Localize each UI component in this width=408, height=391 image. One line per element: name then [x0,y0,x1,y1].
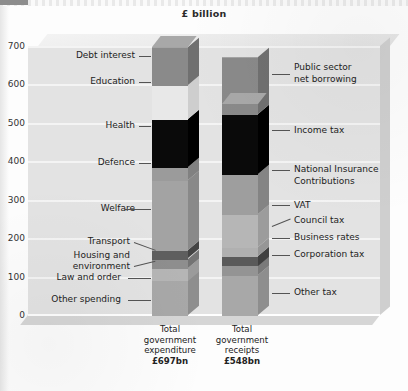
label-vat: VAT [294,200,311,211]
segment-vat[interactable] [222,214,258,248]
leader-corporation-tax [272,255,290,256]
label-welfare: Welfare [0,203,135,214]
segment-side-health [188,110,199,168]
caption-receipts-total: £548bn [194,356,290,367]
gridline-300 [28,200,380,202]
segment-council-tax[interactable] [222,247,258,257]
label-other-spending: Other spending [0,294,121,305]
label-transport: Transport [0,236,130,247]
bar-government-expenditure[interactable] [152,47,188,315]
label-national-insurance-line1: National Insurance [294,164,379,175]
leader-income-tax [272,130,290,131]
gridline-700 [28,46,380,48]
caption-receipts-l3: receipts [194,345,290,356]
leader-public-sector-net-borrowing [272,74,290,75]
segment-housing-and-environment[interactable] [152,259,188,269]
label-council-tax: Council tax [294,215,344,226]
leader-other-tax [272,293,290,294]
leader-education [139,82,151,83]
caption-receipts: Total government receipts £548bn [194,324,290,366]
gridline-0 [28,314,380,316]
label-debt-interest: Debt interest [0,50,135,61]
segment-income-tax[interactable] [222,114,258,175]
scan-artifact-blob [0,0,28,5]
leader-vat [272,205,290,206]
segment-other-tax[interactable] [222,275,258,316]
leader-national-insurance-contributions [272,170,290,171]
label-income-tax: Income tax [294,125,344,136]
segment-business-rates[interactable] [222,256,258,267]
plot-area-top-face [38,34,399,46]
label-public-sector-net-borrowing-line1: Public sector [294,62,351,73]
bar-government-receipts[interactable] [222,104,258,315]
segment-corporation-tax[interactable] [222,265,258,276]
segment-defence[interactable] [152,167,188,181]
label-defence: Defence [0,157,135,168]
label-law-and-order: Law and order [0,272,121,283]
leader-debt-interest [139,56,151,57]
label-education: Education [0,76,135,87]
plot-area-right-face [380,38,390,315]
label-health: Health [0,120,135,131]
caption-receipts-l2: government [194,335,290,346]
segment-side-welfare [188,171,199,251]
label-housing-and: Housing and [0,250,130,261]
leader-law-and-order [128,278,151,279]
leader-business-rates [272,238,290,239]
caption-receipts-l1: Total [194,324,290,335]
label-national-insurance-line2: Contributions [294,176,355,187]
segment-law-and-order[interactable] [152,268,188,282]
segment-health[interactable] [152,119,188,168]
segment-side-income-tax [258,105,269,174]
chart-title: £ billion [0,8,408,19]
segment-side-public-sector-net-borrowing [258,48,269,114]
segment-national-insurance-contributions[interactable] [222,174,258,215]
segment-transport[interactable] [152,250,188,259]
segment-other-spending[interactable] [152,280,188,316]
segment-public-sector-net-borrowing[interactable] [222,57,258,115]
scan-artifact-strip [0,0,408,6]
chart-page: £ billion 700 600 500 400 300 200 100 0 … [0,0,408,391]
label-corporation-tax: Corporation tax [294,249,364,260]
leader-welfare [125,209,151,210]
leader-defence [139,163,151,164]
label-business-rates: Business rates [294,232,360,243]
segment-education[interactable] [152,85,188,120]
y-tick-0: 0 [0,310,25,320]
segment-debt-interest[interactable] [152,47,188,86]
leader-other-spending [128,300,151,301]
segment-welfare[interactable] [152,180,188,251]
leader-health [139,126,151,127]
label-other-tax: Other tax [294,287,337,298]
label-public-sector-net-borrowing-line2: net borrowing [294,74,357,85]
label-environment: environment [0,261,130,272]
